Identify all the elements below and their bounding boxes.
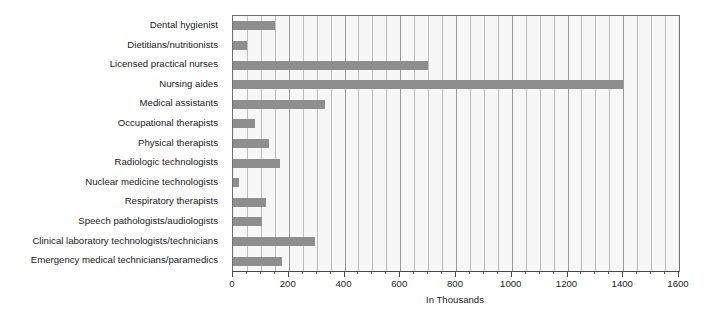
x-tick-minor xyxy=(274,271,275,274)
x-tick-minor xyxy=(664,271,665,274)
category-label: Respiratory therapists xyxy=(0,191,225,211)
x-tick-minor xyxy=(580,271,581,274)
x-tick-label: 800 xyxy=(447,279,463,289)
bar-row xyxy=(233,114,679,134)
bar xyxy=(233,178,239,187)
bar-row xyxy=(233,94,679,114)
x-tick-minor xyxy=(469,271,470,274)
category-label: Emergency medical technicians/paramedics xyxy=(0,250,225,270)
x-tick-major xyxy=(288,271,289,277)
x-tick-minor xyxy=(539,271,540,274)
x-tick-minor xyxy=(246,271,247,274)
bar xyxy=(233,198,266,207)
x-tick-label: 1600 xyxy=(667,279,688,289)
x-tick-major xyxy=(232,271,233,277)
x-tick-major xyxy=(622,271,623,277)
x-tick-label: 0 xyxy=(229,279,234,289)
x-tick-minor xyxy=(636,271,637,274)
category-label: Licensed practical nurses xyxy=(0,54,225,74)
x-tick-label: 400 xyxy=(335,279,351,289)
category-label: Physical therapists xyxy=(0,133,225,153)
x-axis-title: In Thousands xyxy=(232,295,678,305)
bar-row xyxy=(233,232,679,252)
bar xyxy=(233,80,623,89)
category-label: Dental hygienist xyxy=(0,15,225,35)
bar-row xyxy=(233,134,679,154)
bar-row xyxy=(233,251,679,271)
x-tick-major xyxy=(567,271,568,277)
x-tick-major xyxy=(399,271,400,277)
category-label: Dietitians/nutritionists xyxy=(0,35,225,55)
x-tick-label: 1000 xyxy=(500,279,521,289)
x-tick-minor xyxy=(413,271,414,274)
plot-area xyxy=(232,15,680,272)
x-tick-minor xyxy=(316,271,317,274)
x-tick-minor xyxy=(497,271,498,274)
x-tick-label: 200 xyxy=(280,279,296,289)
bars-layer xyxy=(233,16,679,271)
x-tick-minor xyxy=(594,271,595,274)
x-tick-minor xyxy=(441,271,442,274)
x-tick-major xyxy=(678,271,679,277)
bar-row xyxy=(233,75,679,95)
bar xyxy=(233,41,247,50)
bar-row xyxy=(233,192,679,212)
bar xyxy=(233,21,275,30)
category-label: Nuclear medicine technologists xyxy=(0,172,225,192)
bar xyxy=(233,100,325,109)
x-tick-label: 600 xyxy=(391,279,407,289)
category-label: Speech pathologists/audiologists xyxy=(0,211,225,231)
bar xyxy=(233,139,269,148)
bar-row xyxy=(233,173,679,193)
category-label: Nursing aides xyxy=(0,74,225,94)
x-tick-minor xyxy=(357,271,358,274)
x-tick-minor xyxy=(302,271,303,274)
x-tick-major xyxy=(511,271,512,277)
x-tick-minor xyxy=(371,271,372,274)
x-tick-minor xyxy=(330,271,331,274)
x-tick-major xyxy=(344,271,345,277)
x-tick-minor xyxy=(608,271,609,274)
x-tick-label: 1200 xyxy=(556,279,577,289)
category-axis-labels: Dental hygienistDietitians/nutritionists… xyxy=(0,15,225,270)
category-label: Occupational therapists xyxy=(0,113,225,133)
bar-row xyxy=(233,16,679,36)
x-tick-minor xyxy=(427,271,428,274)
x-tick-minor xyxy=(385,271,386,274)
x-tick-minor xyxy=(650,271,651,274)
x-tick-minor xyxy=(525,271,526,274)
bar xyxy=(233,257,282,266)
bar-row xyxy=(233,212,679,232)
bar-row xyxy=(233,153,679,173)
x-tick-label: 1400 xyxy=(612,279,633,289)
x-tick-minor xyxy=(553,271,554,274)
category-label: Clinical laboratory technologists/techni… xyxy=(0,231,225,251)
bar-row xyxy=(233,36,679,56)
x-tick-minor xyxy=(483,271,484,274)
bar-row xyxy=(233,55,679,75)
category-label: Radiologic technologists xyxy=(0,152,225,172)
bar xyxy=(233,61,428,70)
x-tick-major xyxy=(455,271,456,277)
bar xyxy=(233,237,315,246)
bar xyxy=(233,217,262,226)
x-tick-minor xyxy=(260,271,261,274)
bar-chart: Dental hygienistDietitians/nutritionists… xyxy=(0,0,707,319)
bar xyxy=(233,159,280,168)
category-label: Medical assistants xyxy=(0,93,225,113)
bar xyxy=(233,119,255,128)
